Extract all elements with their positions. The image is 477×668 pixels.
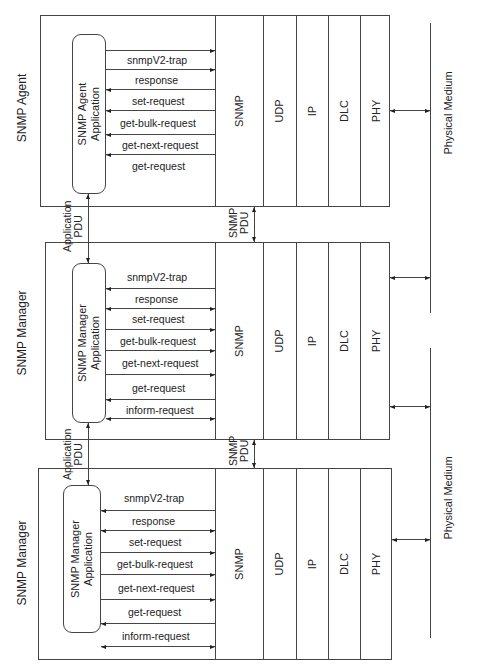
msg-snmpv2-trap: snmpV2-trap: [127, 54, 187, 66]
layer-divider: [215, 468, 216, 660]
arrow-right-icon: [86, 194, 90, 199]
arrow-down-icon: [425, 406, 430, 410]
layer-divider: [263, 15, 264, 207]
application-pdu-label-2: ApplicationPDU: [62, 201, 84, 252]
app-label-line-2: Application: [89, 316, 101, 370]
arrow-left-icon: [252, 237, 256, 242]
msg-line-get-next-request: [106, 134, 215, 135]
msg-line-get-request: [106, 399, 215, 400]
msg-get-request: get-request: [132, 382, 185, 394]
agent-application: SNMP AgentApplication: [72, 34, 106, 194]
arrow-up-icon: [101, 510, 106, 514]
msg-set-request: set-request: [132, 95, 185, 107]
phy-link-manager-2b: [390, 277, 430, 278]
msg-inform-request: inform-request: [126, 404, 194, 416]
msg-line-set-request: [106, 89, 215, 90]
arrow-up-icon: [106, 399, 111, 403]
msg-line-inform-request: [106, 418, 215, 419]
layer-divider: [296, 242, 297, 440]
phy-link-agent: [390, 110, 430, 111]
layer-udp: UDP: [273, 329, 285, 352]
layer-dlc: DLC: [338, 553, 350, 575]
layer-udp: UDP: [273, 99, 285, 122]
arrow-up-icon: [390, 277, 395, 281]
msg-line-get-bulk-request: [106, 350, 215, 351]
app-label-line-1: SNMP Manager: [76, 304, 88, 382]
arrow-right-icon: [252, 207, 256, 212]
layer-divider: [263, 242, 264, 440]
snmp-architecture-diagram: SNMP Manager SNMP ManagerApplication inf…: [0, 0, 477, 668]
layer-divider: [360, 242, 361, 440]
arrow-up-icon: [106, 308, 111, 312]
arrow-up-icon: [106, 154, 111, 158]
msg-get-next-request: get-next-request: [118, 582, 194, 594]
app-label-line-2: Application: [89, 87, 101, 141]
node-title-manager-1: SNMP Manager: [15, 520, 29, 605]
arrow-up-icon: [106, 89, 111, 93]
msg-line-response: [106, 69, 215, 70]
arrow-up-icon: [106, 418, 111, 422]
layer-divider: [296, 15, 297, 207]
app-label-line-1: SNMP Manager: [69, 520, 81, 598]
arrow-up-icon: [392, 539, 397, 543]
msg-get-bulk-request: get-bulk-request: [117, 558, 193, 570]
msg-line-response: [101, 530, 215, 531]
msg-snmpv2-trap: snmpV2-trap: [127, 271, 187, 283]
layer-divider: [215, 15, 216, 207]
arrow-up-icon: [106, 134, 111, 138]
physical-medium-line-1: [430, 348, 431, 638]
arrow-down-icon: [425, 539, 430, 543]
layer-divider: [215, 242, 216, 440]
layer-divider: [263, 468, 264, 660]
msg-snmpv2-trap: snmpV2-trap: [124, 492, 184, 504]
arrow-left-icon: [252, 463, 256, 468]
arrow-up-icon: [101, 530, 106, 534]
msg-set-request: set-request: [132, 313, 185, 325]
msg-line-get-next-request: [101, 599, 215, 600]
arrow-up-icon: [101, 623, 106, 627]
msg-set-request: set-request: [129, 536, 182, 548]
msg-get-next-request: get-next-request: [122, 139, 198, 151]
layer-ip: IP: [306, 559, 318, 569]
arrow-up-icon: [390, 406, 395, 410]
arrow-down-icon: [425, 277, 430, 281]
arrow-up-icon: [106, 110, 111, 114]
layer-ip: IP: [306, 106, 318, 116]
msg-response: response: [135, 293, 178, 305]
physical-medium-line-2: [430, 23, 431, 313]
msg-line-inform-request: [101, 646, 215, 647]
msg-get-request: get-request: [132, 160, 185, 172]
arrow-right-icon: [86, 423, 90, 428]
layer-snmp: SNMP: [233, 325, 245, 357]
msg-line-set-request: [106, 329, 215, 330]
layer-dlc: DLC: [338, 100, 350, 122]
layer-phy: PHY: [370, 330, 382, 353]
pdu-label-line-2: PDU: [72, 443, 84, 465]
layer-divider: [328, 15, 329, 207]
arrow-right-icon: [252, 440, 256, 445]
layer-divider: [328, 468, 329, 660]
msg-response: response: [135, 74, 178, 86]
arrow-up-icon: [101, 646, 106, 650]
arrow-up-icon: [106, 288, 111, 292]
msg-line-get-request: [101, 623, 215, 624]
msg-get-bulk-request: get-bulk-request: [120, 335, 196, 347]
app-label-line-2: Application: [82, 532, 94, 586]
layer-snmp: SNMP: [233, 95, 245, 127]
physical-medium-label-1: Physical Medium: [442, 456, 454, 539]
msg-get-bulk-request: get-bulk-request: [120, 117, 196, 129]
layer-phy: PHY: [370, 553, 382, 576]
msg-line-snmpv2-trap: [106, 50, 215, 51]
msg-line-get-bulk-request: [101, 574, 215, 575]
node-title-manager-2: SNMP Manager: [15, 290, 29, 375]
arrow-left-icon: [86, 480, 90, 485]
manager-2-application: SNMP ManagerApplication: [72, 263, 106, 423]
layer-ip: IP: [306, 336, 318, 346]
pdu-label-line-2: PDU: [238, 212, 250, 234]
layer-phy: PHY: [370, 100, 382, 123]
node-title-agent: SNMP Agent: [15, 74, 29, 142]
layer-snmp: SNMP: [233, 548, 245, 580]
layer-udp: UDP: [273, 552, 285, 575]
application-pdu-label-1: ApplicationPDU: [62, 429, 84, 480]
layer-divider: [328, 242, 329, 440]
